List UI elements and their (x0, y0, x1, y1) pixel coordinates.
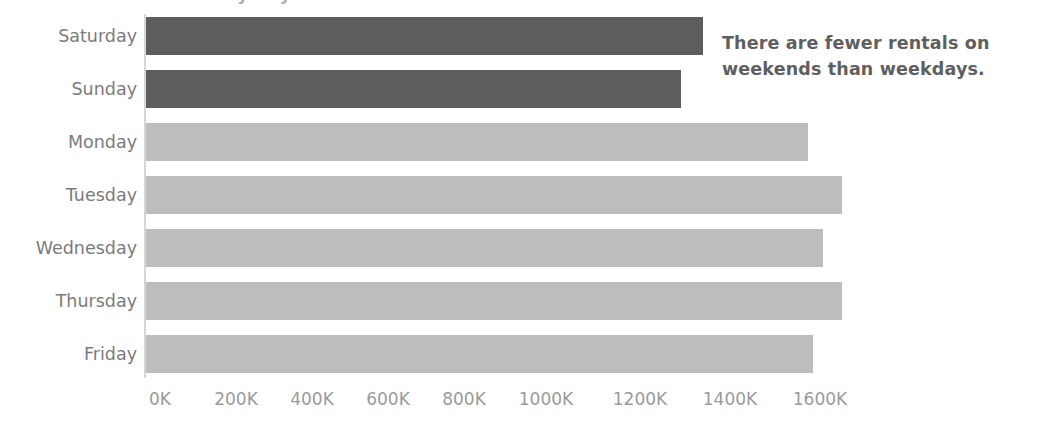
bar-monday[interactable] (146, 123, 808, 161)
category-label-saturday: Saturday (7, 26, 137, 46)
bar-wednesday[interactable] (146, 229, 823, 267)
xtick-200k: 200K (214, 389, 258, 409)
annotation-line-2: weekends than weekdays. (722, 56, 1022, 82)
bar-sunday[interactable] (146, 70, 681, 108)
bar-tuesday[interactable] (146, 176, 842, 214)
category-axis-labels: Saturday Sunday Monday Tuesday Wednesday… (0, 17, 137, 375)
weekend-callout-annotation: There are fewer rentals on weekends than… (722, 30, 1022, 83)
category-label-sunday: Sunday (7, 79, 137, 99)
bar-saturday[interactable] (146, 17, 703, 55)
xtick-800k: 800K (442, 389, 486, 409)
category-label-friday: Friday (7, 344, 137, 364)
category-label-tuesday: Tuesday (7, 185, 137, 205)
category-label-monday: Monday (7, 132, 137, 152)
xtick-1600k: 1600K (793, 389, 847, 409)
annotation-line-1: There are fewer rentals on (722, 30, 1022, 56)
bar-thursday[interactable] (146, 282, 842, 320)
category-label-thursday: Thursday (7, 291, 137, 311)
xtick-600k: 600K (366, 389, 410, 409)
category-label-wednesday: Wednesday (7, 238, 137, 258)
xtick-1000k: 1000K (519, 389, 573, 409)
value-axis-labels: 0K 200K 400K 600K 800K 1000K 1200K 1400K… (0, 389, 1037, 415)
xtick-1400k: 1400K (703, 389, 757, 409)
bar-chart: Rentals by Day of Week Saturday Sunday M… (0, 0, 1037, 441)
bar-friday[interactable] (146, 335, 813, 373)
xtick-1200k: 1200K (613, 389, 667, 409)
xtick-0k: 0K (149, 389, 171, 409)
xtick-400k: 400K (290, 389, 334, 409)
chart-title: Rentals by Day of Week (146, 0, 375, 4)
